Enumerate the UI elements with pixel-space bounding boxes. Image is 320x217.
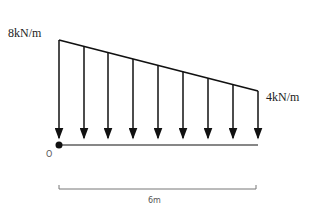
- load-diagram: 8kN/m 4kN/m O 6m: [0, 0, 320, 217]
- origin-point: [56, 142, 63, 149]
- load-right-label: 4kN/m: [266, 90, 300, 104]
- origin-label: O: [46, 150, 52, 159]
- load-left-label: 8kN/m: [8, 26, 42, 40]
- span-dimension: [59, 185, 256, 189]
- span-label: 6m: [148, 196, 161, 205]
- load-arrows: [59, 40, 258, 138]
